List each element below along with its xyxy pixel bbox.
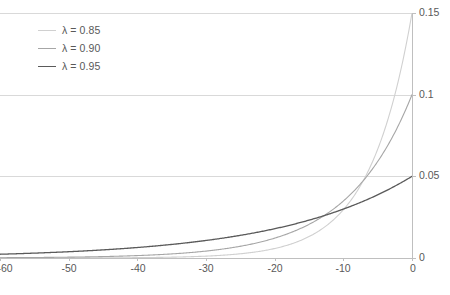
- x-tick-label--30: -30: [191, 262, 221, 274]
- legend-swatch-lambda-085: [38, 30, 56, 31]
- legend-label-lambda-090: λ = 0.90: [62, 42, 100, 54]
- y-axis-line: [412, 13, 413, 259]
- series-line-1: [0, 95, 412, 258]
- y-tick-label-0.15: 0.15: [419, 7, 439, 18]
- y-tick-mark-0.05: [412, 176, 416, 177]
- y-tick-mark-0.1: [412, 95, 416, 96]
- x-tick-mark--10: [343, 258, 344, 261]
- legend: λ = 0.85 λ = 0.90 λ = 0.95: [38, 21, 168, 75]
- x-tick-label--20: -20: [260, 262, 290, 274]
- x-tick-mark--60: [0, 258, 1, 261]
- y-tick-label-0.1: 0.1: [419, 89, 434, 100]
- x-tick-label--10: -10: [328, 262, 358, 274]
- legend-item-lambda-085[interactable]: λ = 0.85: [38, 21, 168, 39]
- x-tick-mark--40: [137, 258, 138, 261]
- legend-label-lambda-085: λ = 0.85: [62, 24, 100, 36]
- x-tick-mark-0: [412, 258, 413, 261]
- legend-item-lambda-095[interactable]: λ = 0.95: [38, 57, 168, 75]
- legend-swatch-lambda-090: [38, 48, 56, 49]
- x-tick-mark--50: [69, 258, 70, 261]
- x-tick-label--40: -40: [123, 262, 153, 274]
- x-tick-label--50: -50: [54, 262, 84, 274]
- x-tick-mark--30: [206, 258, 207, 261]
- series-line-2: [0, 176, 412, 254]
- exponential-decay-line-chart: 0.15 0.1 0.05 0 -60 -50 -40 -30 -20 -10 …: [0, 0, 450, 295]
- x-tick-mark--20: [275, 258, 276, 261]
- caption-sliver: [3, 287, 193, 295]
- y-tick-label-0.05: 0.05: [419, 170, 439, 181]
- legend-swatch-lambda-095: [38, 66, 56, 67]
- x-tick-label--60: -60: [0, 262, 20, 274]
- x-tick-label-0: 0: [398, 262, 428, 274]
- legend-label-lambda-095: λ = 0.95: [62, 60, 100, 72]
- y-tick-mark-0.15: [412, 13, 416, 14]
- legend-item-lambda-090[interactable]: λ = 0.90: [38, 39, 168, 57]
